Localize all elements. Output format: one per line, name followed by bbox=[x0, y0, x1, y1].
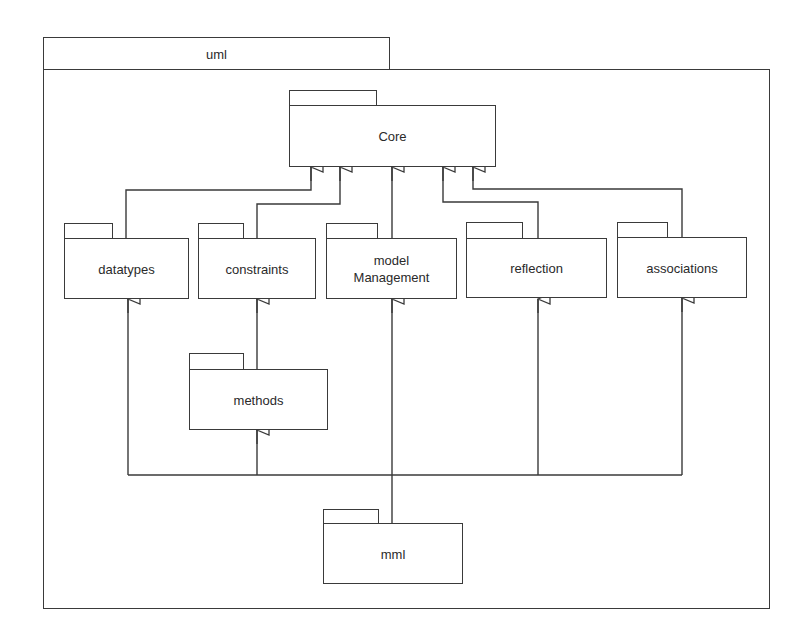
model-management-package-name: model Management bbox=[327, 252, 456, 286]
datatypes-package-tab bbox=[64, 223, 113, 239]
associations-package-tab bbox=[617, 222, 668, 238]
datatypes-package[interactable]: datatypes bbox=[64, 238, 189, 299]
core-package[interactable]: Core bbox=[289, 105, 496, 167]
model-management-package[interactable]: model Management bbox=[326, 238, 457, 299]
associations-package[interactable]: associations bbox=[617, 237, 747, 298]
datatypes-package-name: datatypes bbox=[65, 260, 188, 277]
methods-package-name: methods bbox=[190, 391, 327, 408]
mml-package-name: mml bbox=[324, 545, 462, 562]
constraints-package-name: constraints bbox=[199, 260, 315, 277]
reflection-package-name: reflection bbox=[467, 260, 606, 277]
mml-package[interactable]: mml bbox=[323, 523, 463, 584]
methods-package[interactable]: methods bbox=[189, 369, 328, 430]
model-management-name-line1: model bbox=[327, 252, 456, 269]
constraints-package-tab bbox=[198, 223, 244, 239]
uml-package-tab: uml bbox=[43, 37, 390, 70]
model-management-name-line2: Management bbox=[327, 269, 456, 286]
uml-package-name: uml bbox=[44, 46, 389, 61]
reflection-package-tab bbox=[466, 222, 523, 239]
core-package-name: Core bbox=[290, 128, 495, 145]
methods-package-tab bbox=[189, 353, 244, 370]
model-management-package-tab bbox=[326, 223, 378, 239]
mml-package-tab bbox=[323, 509, 379, 524]
reflection-package[interactable]: reflection bbox=[466, 238, 607, 298]
uml-package-diagram: uml bbox=[0, 0, 809, 642]
constraints-package[interactable]: constraints bbox=[198, 238, 316, 299]
associations-package-name: associations bbox=[618, 259, 746, 276]
core-package-tab bbox=[289, 90, 377, 106]
